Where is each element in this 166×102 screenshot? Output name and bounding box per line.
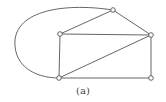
edge-top-upper-left	[60, 10, 113, 34]
edge-upper-left-bottom-left	[59, 34, 60, 78]
edge-top-right	[113, 10, 151, 35]
node-top	[111, 8, 116, 13]
node-bottom-left	[57, 76, 62, 81]
node-right	[149, 33, 154, 38]
edge-right-bottom-left	[59, 35, 151, 78]
edge-curved-top-bottom-left	[15, 7, 113, 78]
figure-caption: (a)	[0, 85, 166, 96]
edge-upper-left-right	[60, 34, 151, 35]
node-upper-left	[58, 32, 63, 37]
node-bottom-right	[149, 76, 154, 81]
